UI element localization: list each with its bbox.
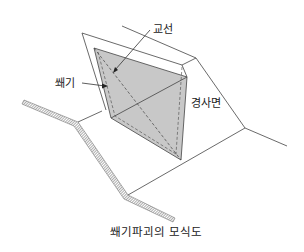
- slope-face-label: 경사면: [191, 97, 221, 110]
- wedge-label: 쐐기: [55, 77, 75, 90]
- diagram-caption: 쐐기파괴의 모식도: [110, 225, 202, 239]
- intersection-line-label: 교선: [153, 23, 173, 36]
- wedge-block: [94, 48, 187, 160]
- wedge-failure-diagram: 교선 쐐기 경사면 쐐기파괴의 모식도: [0, 0, 304, 252]
